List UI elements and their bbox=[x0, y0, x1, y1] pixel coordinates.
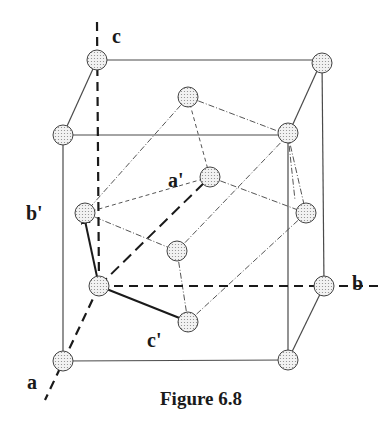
atom bbox=[296, 203, 316, 223]
c-axis-label: c bbox=[112, 26, 121, 46]
atom bbox=[87, 50, 107, 70]
a-prime-label: a' bbox=[168, 170, 184, 190]
atom bbox=[53, 351, 73, 371]
b-prime-vector bbox=[84, 216, 99, 286]
atom bbox=[314, 276, 334, 296]
c-prime-label: c' bbox=[147, 330, 161, 350]
crystal-lattice-diagram bbox=[0, 0, 392, 426]
a-axis-label: a bbox=[27, 372, 37, 392]
c-prime-vector bbox=[99, 286, 187, 321]
atom bbox=[200, 167, 220, 187]
figure-caption: Figure 6.8 bbox=[160, 388, 242, 410]
atom bbox=[89, 276, 109, 296]
atom bbox=[312, 53, 332, 73]
atom bbox=[167, 241, 187, 261]
b-prime-label: b' bbox=[26, 203, 43, 223]
atom bbox=[278, 350, 298, 370]
atom bbox=[178, 87, 198, 107]
primitive-cell-edges bbox=[85, 97, 306, 322]
atom bbox=[178, 312, 198, 332]
atom bbox=[278, 123, 298, 143]
atom bbox=[53, 125, 73, 145]
a-axis bbox=[45, 286, 99, 400]
atoms bbox=[53, 50, 334, 371]
b-axis-label: b bbox=[352, 273, 363, 293]
atom bbox=[75, 203, 95, 223]
